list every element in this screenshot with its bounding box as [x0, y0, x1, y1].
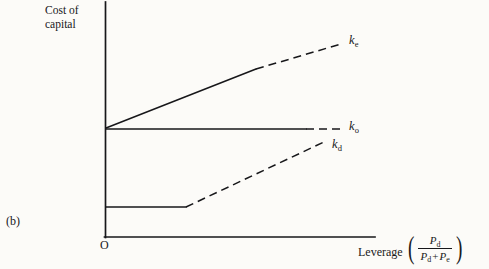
curve-label-ko-subscript: o [355, 125, 359, 135]
origin-label: O [100, 238, 109, 252]
paren-close: ) [456, 237, 464, 259]
fraction-denominator-subscript-2: e [446, 255, 450, 264]
leverage-fraction: Pd Pd+Pe [417, 234, 453, 262]
curve-label-ke: ke [349, 33, 358, 48]
figure-cost-of-capital-vs-leverage: Cost of capital O (b) ke ko kd Leverage … [0, 0, 489, 269]
x-axis-title-word: Leverage [358, 236, 405, 260]
curve-kd-dashed [186, 141, 326, 207]
curve-label-ke-subscript: e [355, 39, 359, 49]
x-axis-title: Leverage ( Pd Pd+Pe ) [358, 234, 466, 262]
curve-label-ko-symbol: k [349, 119, 355, 133]
curve-ke-dashed [256, 44, 341, 69]
curve-ke-solid [106, 69, 256, 128]
curve-label-ko: ko [349, 119, 359, 134]
curve-label-ke-symbol: k [349, 33, 355, 47]
curve-label-kd: kd [332, 137, 342, 152]
chart-plot-area [0, 0, 489, 269]
fraction-denominator: Pd+Pe [418, 250, 451, 263]
panel-label: (b) [6, 214, 20, 228]
curve-label-kd-subscript: d [338, 143, 342, 153]
y-axis-title: Cost of capital [45, 3, 79, 32]
paren-open: ( [407, 237, 415, 259]
fraction-denominator-subscript-1: d [427, 255, 431, 264]
curve-label-kd-symbol: k [332, 137, 338, 151]
fraction-numerator-subscript: d [436, 240, 440, 249]
fraction-numerator: Pd [428, 234, 443, 247]
